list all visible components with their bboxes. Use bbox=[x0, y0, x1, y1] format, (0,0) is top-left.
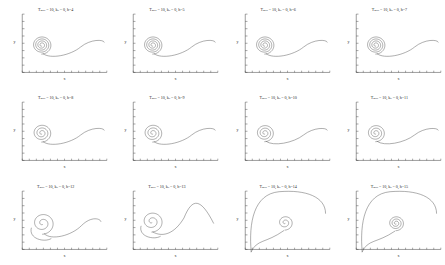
svg-text:y: y bbox=[13, 41, 15, 45]
panel-plot-2: x y bbox=[223, 0, 334, 88]
panel-plot-11: x y bbox=[334, 177, 445, 265]
svg-text:x: x bbox=[64, 166, 66, 170]
plot-panel-2: Tmax = 10, k0 = 0, h=6 x y bbox=[223, 0, 334, 88]
panel-plot-9: x y bbox=[111, 177, 222, 265]
plot-panel-11: Tmax = 10, k0 = 0, h=15 x y bbox=[334, 177, 445, 265]
svg-text:y: y bbox=[125, 41, 127, 45]
plot-panel-1: Tmax = 10, k0 = 0, h=5 x y bbox=[111, 0, 222, 88]
plot-panel-4: Tmax = 10, k0 = 0, h=8 x y bbox=[0, 88, 111, 176]
panel-plot-7: x y bbox=[334, 88, 445, 176]
svg-text:x: x bbox=[286, 254, 288, 258]
svg-text:x: x bbox=[64, 254, 66, 258]
svg-text:y: y bbox=[125, 129, 127, 133]
svg-text:x: x bbox=[175, 78, 177, 82]
plot-panel-6: Tmax = 10, k0 = 0, h=10 x y bbox=[223, 88, 334, 176]
svg-text:y: y bbox=[236, 217, 238, 221]
svg-text:y: y bbox=[236, 129, 238, 133]
plot-panel-5: Tmax = 10, k0 = 0, h=9 x y bbox=[111, 88, 222, 176]
panel-plot-8: x y bbox=[0, 177, 111, 265]
svg-text:x: x bbox=[286, 78, 288, 82]
figure-grid: Tmax = 10, k0 = 0, h=4 x y Tmax = 10, k0… bbox=[0, 0, 445, 265]
panel-plot-10: x y bbox=[223, 177, 334, 265]
panel-plot-3: x y bbox=[334, 0, 445, 88]
panel-plot-6: x y bbox=[223, 88, 334, 176]
svg-text:y: y bbox=[13, 217, 15, 221]
plot-panel-9: Tmax = 10, k0 = 0, h=13 x y bbox=[111, 177, 222, 265]
plot-panel-3: Tmax = 10, k0 = 0, h=7 x y bbox=[334, 0, 445, 88]
svg-text:x: x bbox=[397, 254, 399, 258]
plot-panel-8: Tmax = 10, k0 = 0, h=12 x y bbox=[0, 177, 111, 265]
plot-panel-0: Tmax = 10, k0 = 0, h=4 x y bbox=[0, 0, 111, 88]
svg-text:y: y bbox=[13, 129, 15, 133]
svg-text:y: y bbox=[347, 41, 349, 45]
svg-text:x: x bbox=[64, 78, 66, 82]
panel-plot-0: x y bbox=[0, 0, 111, 88]
panel-plot-1: x y bbox=[111, 0, 222, 88]
plot-panel-7: Tmax = 10, k0 = 0, h=11 x y bbox=[334, 88, 445, 176]
svg-text:x: x bbox=[397, 78, 399, 82]
svg-text:y: y bbox=[347, 129, 349, 133]
svg-text:y: y bbox=[125, 217, 127, 221]
svg-text:x: x bbox=[397, 166, 399, 170]
svg-text:y: y bbox=[347, 217, 349, 221]
svg-text:x: x bbox=[286, 166, 288, 170]
svg-text:x: x bbox=[175, 166, 177, 170]
panel-plot-4: x y bbox=[0, 88, 111, 176]
svg-text:x: x bbox=[175, 254, 177, 258]
svg-text:y: y bbox=[236, 41, 238, 45]
plot-panel-10: Tmax = 10, k0 = 0, h=14 x y bbox=[223, 177, 334, 265]
panel-plot-5: x y bbox=[111, 88, 222, 176]
